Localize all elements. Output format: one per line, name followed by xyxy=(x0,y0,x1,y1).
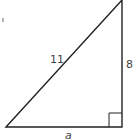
horizontal-leg-label: a xyxy=(65,129,72,140)
stray-dot xyxy=(2,20,4,22)
hypotenuse-label: 11 xyxy=(50,53,64,66)
right-triangle xyxy=(6,0,122,127)
right-angle-marker xyxy=(109,113,122,127)
stray-dot xyxy=(2,18,4,20)
vertical-leg-label: 8 xyxy=(126,58,133,71)
triangle-diagram: 11 8 a xyxy=(0,0,135,140)
